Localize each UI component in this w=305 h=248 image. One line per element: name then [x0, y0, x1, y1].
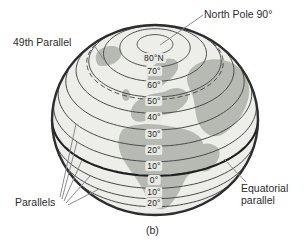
latitude-label-n70: 70° [145, 66, 162, 76]
latitude-label-s20: 20° [145, 198, 162, 208]
label-north-pole: North Pole 90° [204, 8, 272, 20]
latitude-label-n10: 10° [145, 161, 162, 171]
label-parallels: Parallels [15, 196, 55, 208]
label-49th-parallel: 49th Parallel [13, 36, 71, 48]
latitude-label-s10: 10° [145, 187, 162, 197]
label-equatorial-parallel: Equatorial parallel [241, 182, 303, 206]
latitude-label-n30: 30° [145, 129, 162, 139]
figure-globe-parallels: North Pole 90° 49th Parallel Parallels E… [0, 0, 305, 248]
latitude-label-n40: 40° [145, 112, 162, 122]
latitude-label-n80: 80°N [142, 53, 166, 63]
latitude-label-n20: 20° [145, 145, 162, 155]
latitude-label-n0: 0° [148, 175, 161, 185]
latitude-label-n50: 50° [145, 96, 162, 106]
figure-caption: (b) [146, 224, 159, 236]
latitude-label-n60: 60° [145, 80, 162, 90]
